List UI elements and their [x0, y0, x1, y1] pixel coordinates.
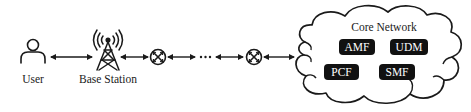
nf-udm: UDM	[390, 39, 428, 55]
core-network-title: Core Network	[351, 21, 416, 33]
ellipsis-dots	[200, 56, 211, 58]
router-icon	[247, 50, 262, 65]
nf-smf: SMF	[379, 64, 415, 80]
cell-tower-icon	[94, 30, 123, 70]
base-station-label: Base Station	[79, 73, 137, 85]
user-icon	[21, 40, 45, 64]
nf-amf: AMF	[339, 39, 375, 55]
network-diagram	[0, 0, 471, 112]
user-label: User	[22, 73, 44, 85]
nf-pcf: PCF	[324, 64, 359, 80]
router-icon	[151, 50, 166, 65]
